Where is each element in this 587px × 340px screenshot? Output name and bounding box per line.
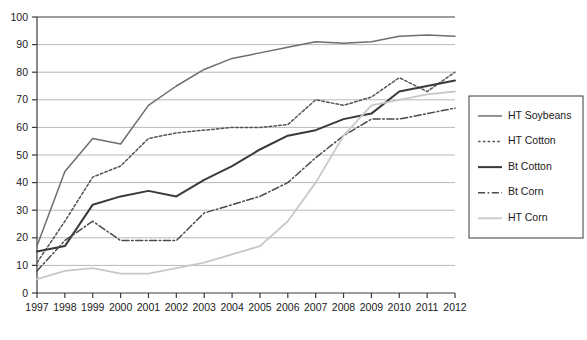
- line-chart: 0102030405060708090100 19971998199920002…: [0, 0, 587, 340]
- y-tick-label-60: 60: [16, 121, 28, 133]
- x-tick-label-2002: 2002: [165, 301, 189, 313]
- legend-label-ht-corn: HT Corn: [508, 211, 548, 223]
- y-tick-label-30: 30: [16, 204, 28, 216]
- y-tick-label-50: 50: [16, 149, 28, 161]
- series-line-ht-soybeans: [37, 35, 455, 246]
- x-tick-label-1998: 1998: [53, 301, 77, 313]
- chart-canvas: 0102030405060708090100 19971998199920002…: [0, 0, 587, 340]
- x-tick-label-2000: 2000: [109, 301, 133, 313]
- x-tick-label-2011: 2011: [416, 301, 439, 313]
- x-tick-label-2005: 2005: [248, 301, 272, 313]
- x-tick-label-2006: 2006: [276, 301, 300, 313]
- y-tick-label-40: 40: [16, 176, 28, 188]
- x-tick-label-2001: 2001: [137, 301, 161, 313]
- x-tick-label-2010: 2010: [388, 301, 412, 313]
- chart-legend: HT SoybeansHT CottonBt CottonBt CornHT C…: [469, 96, 583, 238]
- legend-label-bt-cotton: Bt Cotton: [508, 160, 552, 172]
- x-tick-label-2012: 2012: [443, 301, 467, 313]
- y-tick-label-20: 20: [16, 231, 28, 243]
- x-tick-label-1997: 1997: [25, 301, 49, 313]
- x-tick-label-1999: 1999: [81, 301, 105, 313]
- x-tick-label-2003: 2003: [193, 301, 217, 313]
- y-tick-label-90: 90: [16, 38, 28, 50]
- x-tick-label-2004: 2004: [220, 301, 244, 313]
- y-axis: 0102030405060708090100: [10, 11, 37, 299]
- x-tick-label-2009: 2009: [360, 301, 384, 313]
- grid-lines: [37, 17, 455, 265]
- x-axis: 1997199819992000200120022003200420052006…: [25, 293, 467, 313]
- y-tick-label-100: 100: [10, 11, 28, 23]
- y-tick-label-10: 10: [16, 259, 28, 271]
- x-tick-label-2008: 2008: [332, 301, 356, 313]
- data-series-group: [37, 35, 455, 279]
- y-tick-label-80: 80: [16, 66, 28, 78]
- legend-label-ht-soybeans: HT Soybeans: [508, 109, 571, 121]
- legend-label-ht-cotton: HT Cotton: [508, 134, 556, 146]
- x-tick-label-2007: 2007: [304, 301, 328, 313]
- series-line-bt-corn: [37, 108, 455, 271]
- legend-label-bt-corn: Bt Corn: [508, 185, 544, 197]
- y-tick-label-70: 70: [16, 93, 28, 105]
- y-tick-label-0: 0: [22, 287, 28, 299]
